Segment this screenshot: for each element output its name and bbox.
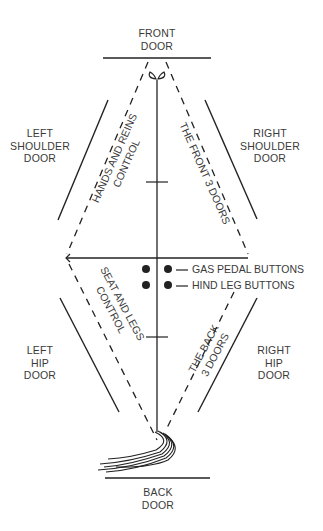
gas-pedal-button-right xyxy=(164,265,172,273)
hind-leg-button-right xyxy=(164,281,172,289)
left-shoulder-door-label: LEFT SHOULDER DOOR xyxy=(6,127,74,165)
gas-pedal-button-left xyxy=(142,265,150,273)
left-hip-door-label: LEFT HIP DOOR xyxy=(12,344,68,382)
right-hip-door-label: RIGHT HIP DOOR xyxy=(246,344,302,382)
hind-leg-buttons-label: HIND LEG BUTTONS xyxy=(192,279,295,291)
tail-icon xyxy=(98,431,175,472)
gas-pedal-buttons-label: GAS PEDAL BUTTONS xyxy=(192,263,304,275)
right-shoulder-door-label: RIGHT SHOULDER DOOR xyxy=(236,127,304,165)
hind-leg-button-left xyxy=(142,281,150,289)
ears-icon xyxy=(149,72,165,79)
front-door-label: FRONT DOOR xyxy=(127,27,187,52)
back-door-label: BACK DOOR xyxy=(128,486,188,511)
